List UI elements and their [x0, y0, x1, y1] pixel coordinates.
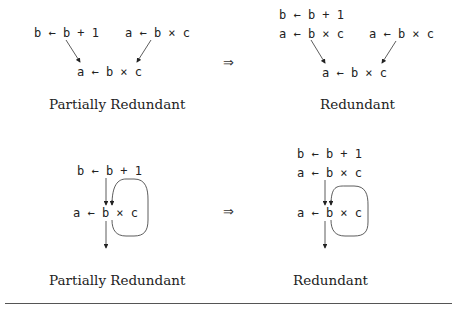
divider-rule [5, 303, 452, 304]
flow-arrows [0, 0, 454, 313]
